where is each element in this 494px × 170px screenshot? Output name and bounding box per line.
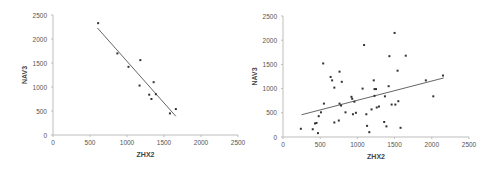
data-point xyxy=(352,113,354,115)
x-tick-label: 2500 xyxy=(231,139,246,146)
data-point xyxy=(376,106,378,108)
scatter-chart-right: 0500100015002000250005001000150020002500… xyxy=(247,0,494,170)
data-point xyxy=(375,88,377,90)
data-point xyxy=(340,105,342,107)
data-point xyxy=(139,85,141,87)
data-point xyxy=(363,44,365,46)
x-tick-label: 1000 xyxy=(350,141,365,148)
data-point xyxy=(320,111,322,113)
y-tick-label: 500 xyxy=(36,108,47,115)
data-point xyxy=(378,106,380,108)
data-point xyxy=(318,115,320,117)
y-tick-label: 0 xyxy=(273,134,277,141)
data-point xyxy=(315,122,317,124)
data-point xyxy=(150,98,152,100)
data-point xyxy=(169,112,171,114)
y-axis-label: NAV3 xyxy=(21,66,28,84)
y-tick-label: 0 xyxy=(43,132,47,139)
data-point xyxy=(127,66,129,68)
data-point xyxy=(116,52,118,54)
scatter-chart-left: 0500100015002000250005001000150020002500… xyxy=(0,0,247,170)
data-point xyxy=(383,121,385,123)
data-point xyxy=(333,87,335,89)
x-tick-label: 500 xyxy=(315,141,326,148)
y-tick-label: 2000 xyxy=(263,37,278,44)
data-point xyxy=(368,131,370,133)
y-tick-label: 500 xyxy=(266,109,277,116)
data-point xyxy=(339,71,341,73)
data-point xyxy=(366,125,368,127)
data-point xyxy=(385,125,387,127)
x-tick-label: 500 xyxy=(85,139,96,146)
data-point xyxy=(394,32,396,34)
data-point xyxy=(350,96,352,98)
chart-canvas: 0500100015002000250005001000150020002500… xyxy=(247,0,494,170)
data-point xyxy=(442,75,444,77)
data-point xyxy=(432,95,434,97)
data-point xyxy=(365,113,367,115)
data-point xyxy=(362,88,364,90)
data-point xyxy=(353,101,355,103)
x-tick-label: 1500 xyxy=(387,141,402,148)
data-point xyxy=(175,108,177,110)
data-point xyxy=(341,81,343,83)
data-point xyxy=(391,104,393,106)
y-tick-label: 1000 xyxy=(33,84,48,91)
x-tick-label: 0 xyxy=(281,141,285,148)
data-point xyxy=(397,100,399,102)
data-point xyxy=(374,95,376,97)
data-point xyxy=(405,55,407,57)
trendline xyxy=(302,78,444,115)
y-tick-label: 2000 xyxy=(33,36,48,43)
data-point xyxy=(148,94,150,96)
data-point xyxy=(344,111,346,113)
data-point xyxy=(317,132,319,134)
data-point xyxy=(355,112,357,114)
data-point xyxy=(338,120,340,122)
data-point xyxy=(388,85,390,87)
data-point xyxy=(330,76,332,78)
data-point xyxy=(300,128,302,130)
data-point xyxy=(394,104,396,106)
data-point xyxy=(153,81,155,83)
y-tick-label: 1500 xyxy=(33,60,48,67)
x-tick-label: 2500 xyxy=(462,141,477,148)
data-point xyxy=(371,108,373,110)
data-point xyxy=(388,55,390,57)
data-point xyxy=(400,127,402,129)
data-point xyxy=(139,59,141,61)
data-point xyxy=(331,79,333,81)
data-point xyxy=(97,22,99,24)
x-tick-label: 1500 xyxy=(157,139,172,146)
y-tick-label: 2500 xyxy=(33,12,48,19)
data-point xyxy=(322,62,324,64)
data-point xyxy=(312,128,314,130)
data-point xyxy=(351,98,353,100)
data-point xyxy=(373,79,375,81)
y-axis-label: NAV3 xyxy=(251,67,258,85)
data-point xyxy=(425,79,427,81)
x-tick-label: 1000 xyxy=(120,139,135,146)
x-tick-label: 2000 xyxy=(194,139,209,146)
trendline xyxy=(97,28,175,116)
x-axis-label: ZHX2 xyxy=(367,153,385,160)
x-tick-label: 2000 xyxy=(425,141,440,148)
x-tick-label: 0 xyxy=(51,139,55,146)
y-tick-label: 1000 xyxy=(263,85,278,92)
data-point xyxy=(333,121,335,123)
y-tick-label: 1500 xyxy=(263,61,278,68)
data-point xyxy=(339,103,341,105)
chart-canvas: 0500100015002000250005001000150020002500… xyxy=(0,0,247,170)
data-point xyxy=(323,103,325,105)
data-point xyxy=(155,93,157,95)
x-axis-label: ZHX2 xyxy=(137,151,155,158)
y-tick-label: 2500 xyxy=(263,13,278,20)
data-point xyxy=(384,95,386,97)
data-point xyxy=(397,70,399,72)
